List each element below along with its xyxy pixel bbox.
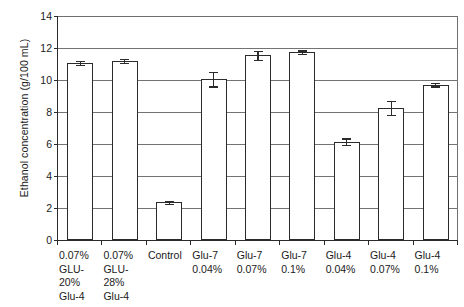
y-axis-tick-labels: 02468101214 <box>30 0 52 307</box>
x-axis-tick-mark <box>457 241 458 245</box>
x-axis-label-line: GLU- <box>59 263 89 277</box>
bars-layer <box>58 16 458 240</box>
x-axis-label-line: Glu-4 <box>326 249 356 263</box>
error-bar <box>213 72 214 86</box>
x-axis-label-line: 0.07% <box>59 249 89 263</box>
bar <box>67 63 93 240</box>
error-bar-cap-top <box>165 201 174 202</box>
error-bar-cap-bottom <box>165 204 174 205</box>
x-axis-label-line: 0.1% <box>281 263 307 277</box>
x-axis-tick-mark <box>235 241 236 245</box>
x-axis-label-line: Glu-7 <box>281 249 307 263</box>
x-axis-label-line: Glu-4 <box>103 290 133 304</box>
bar <box>378 108 404 240</box>
error-bar-cap-top <box>298 50 307 51</box>
x-axis-label-line: Glu-4 <box>59 290 89 304</box>
x-axis-category-label: Glu-40.04% <box>326 249 356 276</box>
x-axis-label-line: 28% <box>103 276 133 290</box>
x-axis-tick-mark <box>146 241 147 245</box>
x-axis-category-label: Glu-70.07% <box>237 249 267 276</box>
x-axis-category-label: Glu-70.04% <box>192 249 222 276</box>
x-axis-label-line: GLU- <box>103 263 133 277</box>
x-axis-tick-mark <box>190 241 191 245</box>
bar <box>201 79 227 240</box>
x-axis-tick-mark <box>413 241 414 245</box>
bar-chart: Ethanol concentration (g/100 mL) 0246810… <box>0 0 464 307</box>
error-bar-cap-bottom <box>120 63 129 64</box>
bar <box>245 55 271 240</box>
y-axis-title: Ethanol concentration (g/100 mL) <box>18 8 30 228</box>
error-bar-cap-top <box>254 51 263 52</box>
x-axis-category-label: Glu-40.1% <box>415 249 441 276</box>
error-bar-cap-top <box>120 59 129 60</box>
x-axis-category-label: Glu-70.1% <box>281 249 307 276</box>
x-axis-label-line: 0.1% <box>415 263 441 277</box>
y-axis-tick-label: 10 <box>32 75 52 85</box>
x-axis-label-line: 20% <box>59 276 89 290</box>
error-bar-cap-top <box>387 101 396 102</box>
x-axis-label-line: 0.07% <box>237 263 267 277</box>
x-axis-label-line: 0.04% <box>192 263 222 277</box>
error-bar-cap-top <box>209 72 218 73</box>
x-axis-tick-marks <box>57 241 458 246</box>
error-bar-cap-bottom <box>209 86 218 87</box>
x-axis-tick-mark <box>279 241 280 245</box>
error-bar-cap-bottom <box>342 145 351 146</box>
x-axis-tick-mark <box>324 241 325 245</box>
bar <box>334 142 360 240</box>
y-axis-tick-label: 6 <box>32 139 52 149</box>
x-axis-label-line: Control <box>148 249 182 263</box>
x-axis-label-line: Glu-4 <box>370 249 400 263</box>
error-bar-cap-bottom <box>431 86 440 87</box>
x-axis-label-line: 0.07% <box>103 249 133 263</box>
error-bar <box>391 101 392 115</box>
error-bar-cap-bottom <box>387 115 396 116</box>
error-bar-cap-bottom <box>76 65 85 66</box>
error-bar-cap-top <box>431 83 440 84</box>
y-axis-tick-label: 2 <box>32 203 52 213</box>
x-axis-label-line: 0.04% <box>326 263 356 277</box>
y-axis-tick-label: 14 <box>32 11 52 21</box>
y-axis-tick-label: 0 <box>32 235 52 245</box>
x-axis-tick-labels: 0.07%GLU-20%Glu-40.07%GLU-28%Glu-4Contro… <box>57 249 462 307</box>
x-axis-label-line: 0.07% <box>370 263 400 277</box>
error-bar-cap-top <box>76 61 85 62</box>
x-axis-tick-mark <box>57 241 58 245</box>
x-axis-category-label: Glu-40.07% <box>370 249 400 276</box>
x-axis-label-line: Glu-7 <box>237 249 267 263</box>
bar <box>112 61 138 240</box>
bar <box>289 52 315 240</box>
x-axis-tick-mark <box>101 241 102 245</box>
x-axis-category-label: 0.07%GLU-28%Glu-4 <box>103 249 133 303</box>
bar <box>156 202 182 240</box>
error-bar-cap-bottom <box>254 60 263 61</box>
x-axis-label-line: Glu-4 <box>415 249 441 263</box>
y-axis-tick-label: 8 <box>32 107 52 117</box>
x-axis-label-line: Glu-7 <box>192 249 222 263</box>
plot-area <box>57 16 458 241</box>
x-axis-category-label: Control <box>148 249 182 263</box>
bar <box>423 85 449 240</box>
x-axis-tick-mark <box>368 241 369 245</box>
error-bar-cap-top <box>342 138 351 139</box>
y-axis-tick-label: 4 <box>32 171 52 181</box>
x-axis-category-label: 0.07%GLU-20%Glu-4 <box>59 249 89 303</box>
y-axis-tick-label: 12 <box>32 43 52 53</box>
error-bar-cap-bottom <box>298 54 307 55</box>
error-bar <box>257 51 258 60</box>
